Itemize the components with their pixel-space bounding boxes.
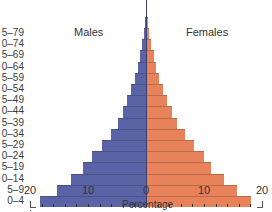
females-label: Females — [186, 26, 228, 38]
bar-females-35–39 — [146, 118, 177, 129]
bar-males-45–49 — [127, 95, 146, 106]
bar-males-60–64 — [138, 62, 146, 73]
axis-left-end — [30, 210, 31, 211]
bar-females-65–69 — [146, 50, 154, 61]
age-label: 5–49 — [0, 94, 24, 105]
age-label: 5–29 — [0, 139, 24, 150]
x-tick — [88, 204, 89, 207]
males-label: Males — [74, 26, 103, 38]
x-tick — [181, 204, 182, 207]
age-label: 5–79 — [0, 27, 24, 38]
age-label: 5–69 — [0, 49, 24, 60]
age-label: 0–34 — [0, 128, 24, 139]
age-label: 5–59 — [0, 72, 24, 83]
bar-males-55–59 — [135, 73, 146, 84]
x-tick — [192, 204, 193, 207]
x-tick — [53, 204, 54, 207]
x-tick — [216, 204, 217, 207]
bar-females-20–24 — [146, 151, 204, 162]
bar-females-25–29 — [146, 140, 194, 151]
x-tick — [65, 204, 66, 207]
x-tick — [204, 204, 205, 207]
tick-label-20-left: 20 — [20, 184, 40, 196]
age-label: 0–54 — [0, 83, 24, 94]
age-label: 0–64 — [0, 61, 24, 72]
center-divider — [146, 0, 147, 207]
x-tick — [239, 204, 240, 207]
bar-males-40–44 — [123, 106, 146, 117]
age-label: 0–4 — [0, 195, 24, 206]
axis-left-end-cap-foot — [30, 207, 36, 208]
tick-label-20-right: 20 — [252, 184, 272, 196]
bar-females-50–54 — [146, 84, 163, 95]
tick-label-0: 0 — [136, 184, 156, 196]
x-tick — [250, 204, 251, 207]
age-label: 0–14 — [0, 173, 24, 184]
bar-females-60–64 — [146, 62, 156, 73]
bar-males-50–54 — [131, 84, 146, 95]
bar-females-55–59 — [146, 73, 159, 84]
tick-label-10-left: 10 — [78, 184, 98, 196]
bar-males-5–9 — [57, 185, 146, 196]
age-label: 5–39 — [0, 117, 24, 128]
bar-females-5–9 — [146, 185, 237, 196]
bar-males-20–24 — [92, 151, 146, 162]
x-tick — [100, 204, 101, 207]
bar-males-15–19 — [83, 162, 146, 173]
x-tick — [111, 204, 112, 207]
x-tick — [42, 204, 43, 207]
bar-males-35–39 — [118, 118, 146, 129]
bar-females-15–19 — [146, 162, 211, 173]
bar-females-45–49 — [146, 95, 167, 106]
x-tick — [227, 204, 228, 207]
age-label: 0–74 — [0, 38, 24, 49]
tick-label-10-right: 10 — [194, 184, 214, 196]
age-label: 0–24 — [0, 150, 24, 161]
age-label: 0–44 — [0, 105, 24, 116]
bar-males-30–34 — [111, 129, 146, 140]
bar-females-40–44 — [146, 106, 172, 117]
bar-females-30–34 — [146, 129, 185, 140]
x-axis-title: Percentage — [122, 199, 173, 210]
x-tick — [76, 204, 77, 207]
bar-males-25–29 — [102, 140, 146, 151]
age-label: 5–19 — [0, 161, 24, 172]
population-pyramid-chart: 0–45–90–145–190–245–290–345–390–445–490–… — [0, 0, 272, 212]
axis-right-end-cap-foot — [257, 207, 263, 208]
